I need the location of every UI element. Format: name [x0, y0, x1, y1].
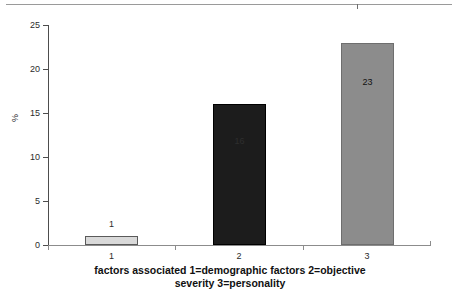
x-axis-end-tick: [430, 241, 431, 246]
y-axis-tick-20: [43, 69, 48, 70]
bar-value-label-1: 1: [85, 220, 138, 229]
y-axis-tick-label-25: 25: [30, 21, 40, 30]
x-axis-tick-1: [175, 245, 176, 250]
y-axis-title: %: [11, 114, 20, 122]
bar-value-label-3: 23: [341, 78, 394, 87]
y-axis-tick-label-5: 5: [35, 197, 40, 206]
y-axis-tick-10: [43, 157, 48, 158]
y-axis-tick-label-10: 10: [30, 153, 40, 162]
y-axis-tick-label-20: 20: [30, 65, 40, 74]
x-axis-tick-0: [48, 245, 49, 250]
x-axis-category-label-3: 3: [303, 252, 431, 261]
x-axis-category-label-1: 1: [48, 252, 175, 261]
x-axis-title-line-1: factors associated 1=demographic factors…: [40, 264, 420, 277]
bar-category-3[interactable]: [341, 43, 394, 245]
y-axis-tick-5: [43, 201, 48, 202]
bar-chart: 25 20 15 10 5 0 % 1 2 3 1 16 23 factors …: [0, 0, 455, 301]
x-axis-title-line-2: severity 3=personality: [40, 277, 420, 290]
x-axis-title: factors associated 1=demographic factors…: [40, 264, 420, 290]
x-axis-tick-2: [303, 245, 304, 250]
x-axis-category-label-2: 2: [175, 252, 303, 261]
y-axis-tick-label-15: 15: [30, 109, 40, 118]
x-axis-line: [48, 245, 431, 246]
bar-category-1[interactable]: [85, 236, 138, 245]
bar-category-2[interactable]: [213, 104, 266, 245]
y-axis-tick-label-0: 0: [35, 241, 40, 250]
y-axis-line: [48, 25, 49, 246]
y-axis-tick-15: [43, 113, 48, 114]
bar-value-label-2: 16: [213, 137, 266, 146]
y-axis-tick-25: [43, 25, 48, 26]
